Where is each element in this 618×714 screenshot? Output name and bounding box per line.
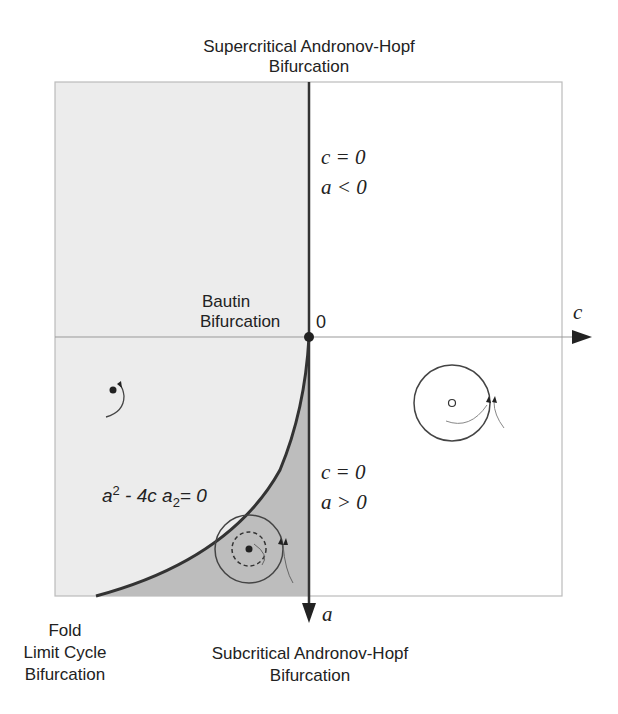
fold-line1: Fold [5,620,125,642]
c-axis-label: c [573,300,582,324]
stable-limit-cycle-icon [414,365,504,441]
origin-label: 0 [316,312,326,332]
equation-exponent: 2 [113,483,120,498]
lower-condition-a: a > 0 [321,490,367,514]
upper-condition: c = 0 a < 0 [321,145,367,199]
subcritical-hopf-label: Subcritical Andronov-Hopf Bifurcation [160,643,460,687]
equation-rhs: = 0 [180,485,207,506]
supercritical-title-line2: Bifurcation [159,57,459,77]
bautin-point [304,332,314,342]
subcritical-line1: Subcritical Andronov-Hopf [160,643,460,665]
diagram-canvas [0,0,618,714]
supercritical-title-line1: Supercritical Andronov-Hopf [159,37,459,57]
equation-a: a [102,485,113,506]
fold-curve-equation: a2 - 4c a2= 0 [102,479,207,515]
supercritical-hopf-title: Supercritical Andronov-Hopf Bifurcation [159,37,459,77]
fold-limit-cycle-label: Fold Limit Cycle Bifurcation [5,620,125,686]
equation-subscript: 2 [173,495,180,510]
a-axis-label: a [322,602,333,626]
a-axis-arrow-icon [302,603,316,623]
c-axis-arrow-icon [572,330,592,344]
lower-condition-c: c = 0 [321,460,367,484]
upper-condition-a: a < 0 [321,175,367,199]
equation-middle: - 4c a [120,485,173,506]
fold-line2: Limit Cycle [5,642,125,664]
bautin-line1: Bautin [200,292,280,312]
subcritical-line2: Bifurcation [160,665,460,687]
bautin-bifurcation-diagram: Supercritical Andronov-Hopf Bifurcation … [0,0,618,714]
upper-condition-c: c = 0 [321,145,367,169]
fold-line3: Bifurcation [5,664,125,686]
bautin-line2: Bifurcation [200,312,280,332]
bautin-label: Bautin Bifurcation [200,292,280,332]
lower-condition: c = 0 a > 0 [321,460,367,514]
